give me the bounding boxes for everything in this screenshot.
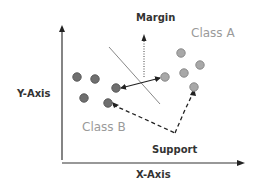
class-a-label: Class A [191, 26, 235, 40]
class-b-point [73, 73, 81, 81]
margin-label: Margin [136, 12, 175, 23]
class-b-label: Class B [82, 120, 126, 134]
class-a-points [161, 49, 204, 91]
y-axis-label: Y-Axis [17, 88, 51, 99]
class-b-point [91, 75, 99, 83]
support-label: Support [152, 144, 197, 155]
class-b-point [112, 84, 120, 92]
class-b-point [104, 99, 112, 107]
hyperplane-line [109, 47, 160, 104]
class-a-point [177, 49, 185, 57]
y-axis-arrow-icon [59, 25, 65, 32]
class-a-point [190, 83, 198, 91]
x-axis-arrow-icon [237, 160, 245, 166]
margin-width-arrow [121, 78, 160, 88]
class-a-point [161, 73, 169, 81]
margin-arrow-head-icon [142, 34, 147, 41]
class-a-point [196, 61, 204, 69]
class-b-points [73, 73, 120, 107]
x-axis-label: X-Axis [136, 169, 171, 180]
class-a-point [180, 69, 188, 77]
class-b-point [80, 94, 88, 102]
